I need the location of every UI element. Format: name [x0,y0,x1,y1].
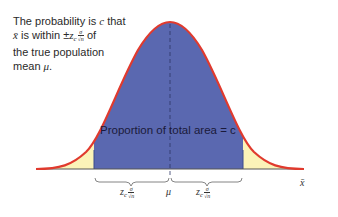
left-margin-label: zcσ√n [120,186,134,199]
mu-label: μ [166,186,171,197]
frac: σ√n [204,186,210,199]
sub: c [124,191,127,199]
left-tail-area [36,0,94,170]
right-margin-label: zcσ√n [196,186,210,199]
den: √n [128,193,134,199]
num: σ [204,186,210,193]
left-brace [95,178,169,186]
num: σ [128,186,134,193]
normal-curve-diagram [0,0,338,217]
frac: σ√n [128,186,134,199]
den: √n [204,193,210,199]
right-tail-area [243,0,304,170]
central-area [94,0,243,170]
area-label: Proportion of total area = c [100,124,236,136]
right-brace [171,178,242,186]
x-axis-label: x̄ [300,177,304,188]
sub: c [200,191,203,199]
